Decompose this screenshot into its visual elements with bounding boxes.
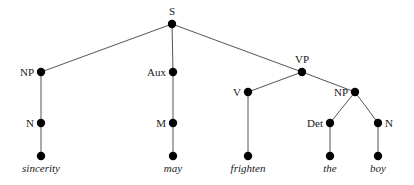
leaf-word-label: may bbox=[164, 162, 182, 174]
tree-node-s: S bbox=[168, 5, 176, 28]
node-dot-icon bbox=[37, 68, 45, 76]
node-category-label: VP bbox=[295, 53, 309, 65]
node-dot-icon bbox=[37, 152, 45, 160]
node-dot-icon bbox=[168, 20, 176, 28]
leaf-node-frighten: frighten bbox=[231, 152, 266, 174]
leaf-word-label: boy bbox=[370, 162, 386, 174]
node-dot-icon bbox=[374, 119, 382, 127]
tree-node-n: N bbox=[26, 117, 45, 129]
tree-edge-s-np1 bbox=[41, 24, 172, 72]
leaf-node-sincerity: sincerity bbox=[22, 152, 60, 174]
leaf-word-label: sincerity bbox=[22, 162, 60, 174]
tree-node-n: N bbox=[374, 117, 393, 129]
leaf-node-the: the bbox=[323, 152, 337, 174]
node-category-label: M bbox=[156, 117, 166, 129]
syntax-tree-diagram: SNPAuxVPNMVNPDetNsinceritymayfrightenthe… bbox=[0, 0, 414, 185]
node-category-label: V bbox=[233, 86, 241, 98]
node-dot-icon bbox=[244, 152, 252, 160]
tree-edges bbox=[41, 24, 378, 156]
node-dot-icon bbox=[244, 88, 252, 96]
tree-node-m: M bbox=[156, 117, 177, 129]
leaf-node-boy: boy bbox=[370, 152, 386, 174]
node-category-label: Det bbox=[307, 117, 323, 129]
tree-edge-s-aux bbox=[172, 24, 173, 72]
node-dot-icon bbox=[374, 152, 382, 160]
tree-node-vp: VP bbox=[295, 53, 309, 76]
node-dot-icon bbox=[326, 152, 334, 160]
leaf-word-label: frighten bbox=[231, 162, 266, 174]
node-category-label: NP bbox=[20, 66, 34, 78]
node-category-label: NP bbox=[334, 86, 348, 98]
leaf-node-may: may bbox=[164, 152, 182, 174]
node-dot-icon bbox=[169, 119, 177, 127]
node-dot-icon bbox=[169, 68, 177, 76]
node-category-label: N bbox=[385, 117, 393, 129]
node-category-label: N bbox=[26, 117, 34, 129]
tree-edge-s-vp bbox=[172, 24, 302, 72]
node-dot-icon bbox=[351, 88, 359, 96]
tree-edge-np2-n2 bbox=[355, 92, 378, 123]
tree-node-np: NP bbox=[334, 86, 359, 98]
leaf-word-label: the bbox=[323, 162, 337, 174]
tree-edge-vp-v bbox=[248, 72, 302, 92]
tree-nodes: SNPAuxVPNMVNPDetNsinceritymayfrightenthe… bbox=[20, 5, 393, 174]
node-dot-icon bbox=[169, 152, 177, 160]
node-dot-icon bbox=[37, 119, 45, 127]
node-category-label: S bbox=[169, 5, 175, 17]
tree-node-v: V bbox=[233, 86, 252, 98]
node-dot-icon bbox=[298, 68, 306, 76]
node-dot-icon bbox=[326, 119, 334, 127]
node-category-label: Aux bbox=[147, 66, 166, 78]
tree-canvas: SNPAuxVPNMVNPDetNsinceritymayfrightenthe… bbox=[0, 0, 414, 185]
